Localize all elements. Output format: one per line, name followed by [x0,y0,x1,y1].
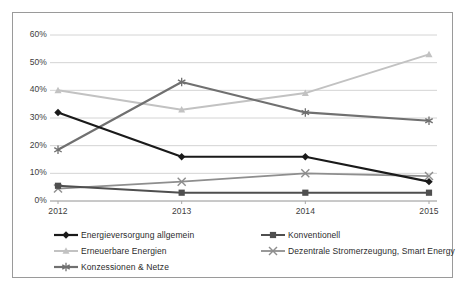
legend-swatch-square-icon [260,229,286,241]
series-line [58,82,429,150]
series-line [58,186,429,193]
legend-label: Konventionell [288,230,340,240]
legend-swatch-diamond-icon [53,229,79,241]
legend-label: Erneuerbare Energien [81,246,167,256]
y-tick-label: 0% [17,195,47,205]
x-tick-label: 2014 [282,206,328,216]
legend-swatch-triangle-icon [53,245,79,257]
legend-marker [270,232,276,238]
y-tick-label: 60% [17,29,47,39]
series-4 [54,78,432,154]
chart-frame: 60%50%40%30%20%10%0% 2012201320142015 En… [12,12,453,278]
legend-label: Konzessionen & Netze [81,262,169,272]
series-marker [426,51,433,58]
legend-item[interactable]: Energieversorgung allgemein [53,228,194,242]
series-1 [55,183,432,196]
series-marker [54,109,61,116]
series-marker [179,190,185,196]
x-tick-label: 2012 [35,206,81,216]
chart-legend: Energieversorgung allgemeinKonventionell… [53,228,448,274]
x-axis [50,201,437,204]
y-tick-label: 50% [17,57,47,67]
legend-swatch-asterisk-icon [53,261,79,273]
legend-marker [62,231,69,238]
legend-label: Energieversorgung allgemein [81,230,194,240]
legend-item[interactable]: Erneuerbare Energien [53,244,167,258]
x-tick-label: 2015 [406,206,452,216]
x-tick-label: 2013 [159,206,205,216]
series-marker [426,190,432,196]
series-marker [302,190,308,196]
series-marker [302,153,309,160]
y-tick-label: 10% [17,167,47,177]
legend-swatch-cross-icon [260,245,286,257]
legend-item[interactable]: Konventionell [260,228,340,242]
series-marker [55,183,61,189]
series-line [58,112,429,181]
legend-item[interactable]: Dezentrale Stromerzeugung, Smart Energy [260,244,455,258]
series-line [58,173,429,188]
legend-label: Dezentrale Stromerzeugung, Smart Energy [288,246,455,256]
y-tick-label: 30% [17,112,47,122]
legend-item[interactable]: Konzessionen & Netze [53,260,169,274]
series-marker [178,153,185,160]
y-tick-label: 40% [17,84,47,94]
y-tick-label: 20% [17,140,47,150]
series-2 [55,51,433,113]
